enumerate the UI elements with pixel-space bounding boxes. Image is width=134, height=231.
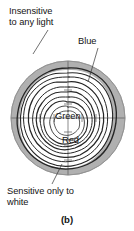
figure-caption: (b) — [0, 214, 134, 225]
annotation-sensitive-line1: Sensitive only to — [7, 186, 74, 197]
annotation-green: Green — [55, 111, 81, 122]
annotation-insensitive-line1: Insensitive — [9, 6, 53, 17]
annotation-red: Red — [62, 135, 79, 146]
annotation-sensitive-only-to-white: Sensitive only to white — [7, 186, 74, 209]
annotation-insensitive-to-any-light: Insensitive to any light — [9, 6, 53, 29]
annotation-sensitive-line2: white — [7, 197, 74, 208]
annotation-insensitive-line2: to any light — [9, 17, 53, 28]
figure-container: Insensitive to any light Blue Green Red … — [0, 0, 134, 231]
annotation-blue: Blue — [78, 36, 96, 47]
insensitive-leader-line — [33, 30, 48, 54]
